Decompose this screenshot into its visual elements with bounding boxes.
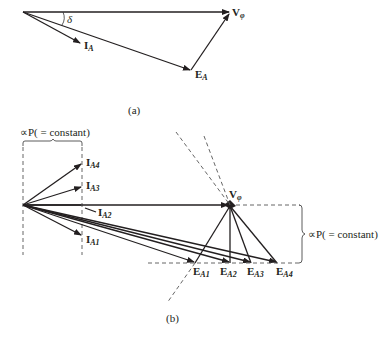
left-brace — [23, 139, 82, 146]
i-a4-label: IA4 — [86, 156, 100, 170]
right-brace-label: ∝P( = constant) — [308, 228, 378, 241]
figure-a: δ Vφ IA EA (a) — [23, 6, 245, 117]
i-a4-vector — [23, 164, 81, 205]
caption-a: (a) — [128, 104, 141, 117]
figure-b: ∝P( = constant) ∝P( = constant) — [20, 126, 378, 325]
e-a2-label: EA2 — [220, 265, 237, 279]
caption-b: (b) — [166, 312, 179, 325]
i-a3-label: IA3 — [86, 179, 100, 193]
e-a2-vector — [23, 205, 229, 262]
guide-dashed-line-3 — [167, 263, 195, 303]
v-phi-label-a: Vφ — [232, 6, 245, 20]
i-a2-leader — [85, 208, 96, 212]
e-a3-label: EA3 — [247, 265, 264, 279]
right-brace — [299, 205, 305, 263]
i-a1-label: IA1 — [86, 233, 100, 247]
e-a-vector-a — [23, 12, 190, 70]
i-a1-vector — [23, 205, 81, 235]
left-brace-label: ∝P( = constant) — [20, 126, 90, 139]
e-a-label-a: EA — [195, 68, 208, 82]
jxs-ia-vector-a — [191, 14, 229, 70]
delta-label: δ — [67, 13, 73, 25]
guide-dashed-line-1 — [176, 132, 230, 205]
e-a3-vector — [23, 205, 250, 262]
v-phi-label-b: Vφ — [229, 188, 242, 202]
e-a4-vector — [23, 205, 276, 262]
e-a4-label: EA4 — [276, 265, 293, 279]
phasor-diagram: δ Vφ IA EA (a) ∝P( = constant) — [0, 0, 392, 341]
e-a1-label: EA1 — [193, 265, 210, 279]
i-a2-label: IA2 — [98, 206, 112, 220]
i-a3-vector — [23, 187, 81, 205]
jxs-ia4-vector — [230, 206, 277, 263]
i-a-label-a: IA — [84, 39, 94, 53]
jxs-ia1-vector — [195, 206, 230, 263]
guide-dashed-line-2 — [204, 136, 230, 205]
delta-angle-arc — [62, 12, 64, 25]
